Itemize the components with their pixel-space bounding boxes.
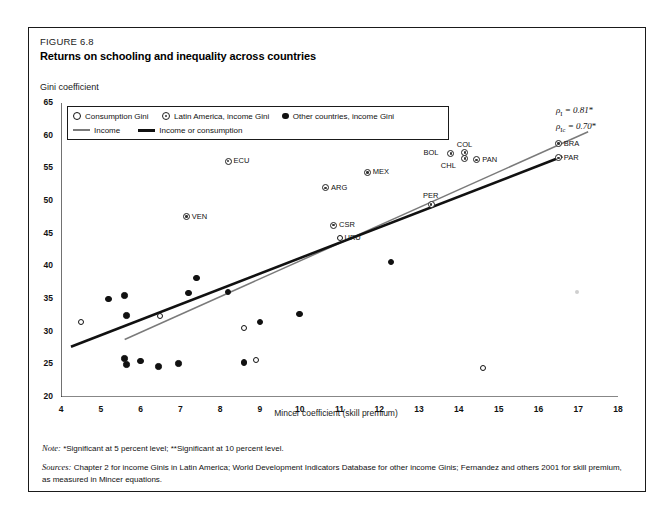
y-axis-title: Gini coefficient [40, 82, 99, 92]
data-point-label-per: PER [423, 191, 438, 200]
legend-label-latin-america: Latin America, income Gini [174, 112, 269, 121]
target-circle-icon [162, 112, 171, 121]
data-point-bra [555, 140, 562, 147]
legend-label-income: Income [94, 126, 120, 135]
legend-label-income-or-consumption: Income or consumption [159, 126, 242, 135]
figure-number: FIGURE 6.8 [40, 36, 94, 47]
black-line-icon [138, 129, 155, 132]
gray-line-icon [73, 129, 90, 131]
x-tick-label: 10 [290, 404, 310, 414]
y-tick-label: 25 [31, 358, 53, 368]
x-tick-label: 4 [51, 404, 71, 414]
filled-circle-icon [282, 113, 289, 120]
data-point [185, 290, 192, 297]
y-tick-label: 55 [31, 162, 53, 172]
note-label: Note: [42, 443, 61, 453]
data-point-label-bra: BRA [564, 139, 579, 148]
legend-row-markers: Consumption Gini Latin America, income G… [73, 110, 443, 122]
legend-item-income-line: Income [73, 126, 120, 135]
data-point [78, 319, 84, 325]
data-point-label-bol: BOL [423, 148, 438, 157]
rho-income-consumption: ρIc = 0.70* [556, 120, 596, 136]
x-tick-label: 7 [170, 404, 190, 414]
note-footnote: Note: *Significant at 5 percent level; *… [42, 443, 632, 455]
data-point-ven [183, 213, 190, 220]
rho-income: ρI = 0.81* [556, 104, 596, 120]
scan-artifact [575, 290, 579, 294]
sources-footnote: Sources: Chapter 2 for income Ginis in L… [42, 462, 632, 485]
legend-item-consumption-gini: Consumption Gini [73, 112, 149, 121]
data-point [241, 359, 248, 366]
data-point-label-chl: CHL [441, 161, 456, 170]
x-tick-label: 15 [489, 404, 509, 414]
x-tick-label: 17 [568, 404, 588, 414]
y-tick-label: 35 [31, 293, 53, 303]
data-point-label-ven: VEN [192, 212, 207, 221]
data-point [155, 363, 162, 370]
correlation-annotations: ρI = 0.81* ρIc = 0.70* [556, 104, 596, 136]
data-point-csr [330, 222, 337, 229]
x-tick-label: 14 [449, 404, 469, 414]
y-tick-label: 65 [31, 97, 53, 107]
x-tick-label: 5 [91, 404, 111, 414]
legend-label-consumption-gini: Consumption Gini [85, 112, 149, 121]
data-point-ecu [225, 158, 232, 165]
y-tick-label: 30 [31, 326, 53, 336]
x-tick-label: 8 [210, 404, 230, 414]
data-point-label-pan: PAN [482, 155, 497, 164]
x-tick-label: 18 [608, 404, 628, 414]
x-tick-label: 9 [250, 404, 270, 414]
data-point [193, 275, 200, 282]
figure-page: FIGURE 6.8 Returns on schooling and ineq… [0, 0, 672, 517]
sources-text: Chapter 2 for income Ginis in Latin Amer… [42, 463, 622, 484]
trend-line-income-or-consumption [71, 157, 562, 347]
data-point-uru [337, 235, 343, 241]
chart-legend: Consumption Gini Latin America, income G… [67, 106, 449, 140]
x-tick-label: 6 [131, 404, 151, 414]
y-tick-label: 20 [31, 391, 53, 401]
data-point [241, 325, 247, 331]
hollow-circle-icon [73, 112, 81, 120]
data-point [121, 292, 128, 299]
y-tick-label: 45 [31, 228, 53, 238]
data-point-label-col: COL [457, 140, 472, 149]
data-point-mex [364, 169, 371, 176]
x-tick-label: 12 [369, 404, 389, 414]
sources-label: Sources: [42, 462, 71, 472]
figure-title: Returns on schooling and inequality acro… [40, 50, 316, 62]
scatter-plot-area: ECUVENARGMEXCSRPERBOLCOLCHLPANBRAPARURU … [61, 103, 618, 397]
data-point [123, 312, 130, 319]
x-tick-label: 13 [409, 404, 429, 414]
legend-item-other-countries: Other countries, income Gini [282, 112, 394, 121]
x-tick-label: 11 [330, 404, 350, 414]
data-point-label-par: PAR [564, 153, 579, 162]
y-tick-label: 50 [31, 195, 53, 205]
data-point [253, 357, 259, 363]
data-point-label-arg: ARG [331, 183, 347, 192]
data-point-label-uru: URU [345, 233, 361, 242]
x-tick-label: 16 [528, 404, 548, 414]
data-point [175, 360, 182, 367]
legend-row-lines: Income Income or consumption [73, 124, 443, 136]
data-point-label-csr: CSR [339, 220, 355, 229]
legend-label-other-countries: Other countries, income Gini [293, 112, 394, 121]
y-tick-label: 40 [31, 260, 53, 270]
data-point [480, 365, 486, 371]
plot-svg [61, 103, 618, 397]
y-tick-label: 60 [31, 130, 53, 140]
legend-item-latin-america: Latin America, income Gini [162, 112, 270, 121]
data-point-label-ecu: ECU [234, 156, 250, 165]
data-point [123, 361, 130, 368]
note-text: *Significant at 5 percent level; **Signi… [63, 444, 284, 453]
legend-item-income-or-consumption-line: Income or consumption [138, 126, 242, 135]
data-point-per [428, 201, 435, 208]
data-point-label-mex: MEX [373, 167, 389, 176]
data-point [137, 358, 144, 365]
